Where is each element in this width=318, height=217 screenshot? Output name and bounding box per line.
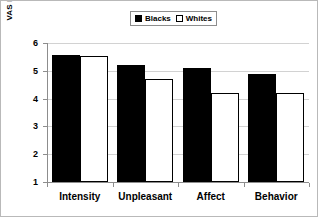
x-axis-tick <box>309 183 310 187</box>
y-axis-tick <box>43 99 47 100</box>
bar-chart: Blacks Whites VAS RATING 123456Intensity… <box>0 0 318 217</box>
y-axis-tick-label: 6 <box>8 39 38 48</box>
y-axis-tick <box>43 126 47 127</box>
y-axis-line <box>47 43 48 183</box>
gridline <box>47 43 309 44</box>
x-axis-tick <box>47 183 48 187</box>
chart-legend: Blacks Whites <box>130 11 217 26</box>
y-axis-tick <box>43 154 47 155</box>
bar-affect-whites <box>211 93 239 182</box>
legend-entry-whites: Whites <box>176 14 212 23</box>
y-axis-tick-label: 4 <box>8 95 38 104</box>
legend-entry-blacks: Blacks <box>135 14 171 23</box>
y-axis-tick-label: 3 <box>8 122 38 131</box>
y-axis-tick-label: 2 <box>8 150 38 159</box>
x-axis-tick <box>244 183 245 187</box>
bar-intensity-whites <box>80 56 108 182</box>
open-square-icon <box>176 15 183 22</box>
bar-unpleasant-whites <box>145 79 173 182</box>
y-axis-tick <box>43 71 47 72</box>
y-axis-title: VAS RATING <box>3 0 17 65</box>
legend-label-blacks: Blacks <box>145 14 171 23</box>
x-axis-tick <box>113 183 114 187</box>
plot-area <box>47 43 309 182</box>
x-axis-tick <box>178 183 179 187</box>
bar-affect-blacks <box>183 68 211 182</box>
bar-behavior-whites <box>276 93 304 182</box>
y-axis-tick <box>43 43 47 44</box>
bar-unpleasant-blacks <box>117 65 145 182</box>
x-axis-category-label: Behavior <box>231 191 318 203</box>
y-axis-tick-label: 5 <box>8 67 38 76</box>
filled-square-icon <box>135 15 142 22</box>
legend-label-whites: Whites <box>186 14 212 23</box>
y-axis-tick-label: 1 <box>8 178 38 187</box>
bar-intensity-blacks <box>52 55 80 182</box>
bar-behavior-blacks <box>248 74 276 182</box>
